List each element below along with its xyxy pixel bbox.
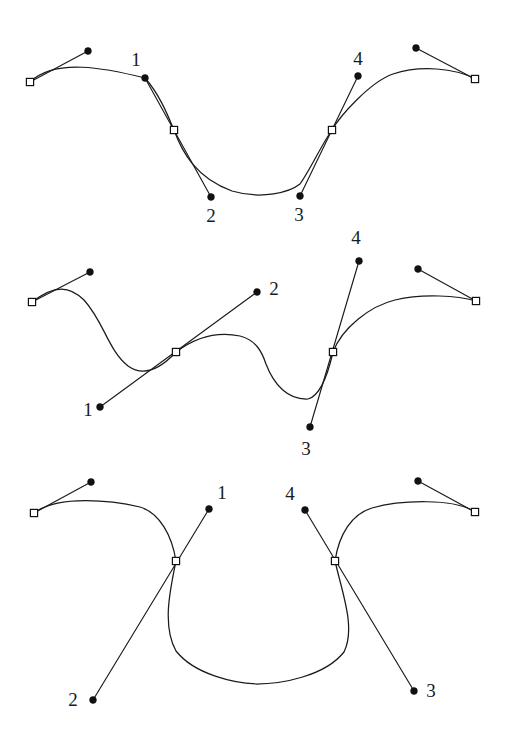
panel-1-label-2: 2	[206, 205, 216, 226]
panel-1-label-3: 3	[294, 204, 304, 225]
panel-3-anchor-mid-right[interactable]	[331, 557, 338, 564]
panel-1-ctrl-4[interactable]	[355, 73, 362, 80]
panel-3: 1234	[30, 478, 478, 711]
handle-left-end	[34, 482, 91, 513]
panel-3-anchor-mid-left[interactable]	[172, 557, 179, 564]
panel-3-label-2: 2	[68, 689, 78, 710]
panel-1-ctrl-outer-right[interactable]	[413, 45, 420, 52]
panel-1-ctrl-1[interactable]	[142, 75, 149, 82]
panel-1-ctrl-2[interactable]	[208, 194, 215, 201]
panel-1-ctrl-outer-left[interactable]	[85, 48, 92, 55]
panel-1-label-1: 1	[131, 49, 141, 70]
figure-root: 123412341234	[0, 0, 508, 751]
panel-1-ctrl-3[interactable]	[297, 193, 304, 200]
panel-3-anchor-left-end[interactable]	[30, 509, 37, 516]
panel-2: 1234	[28, 227, 479, 459]
panel-2-anchor-right-end[interactable]	[472, 297, 479, 304]
asymmetric-tangents-curve	[32, 289, 476, 399]
panel-3-ctrl-1[interactable]	[206, 506, 213, 513]
panel-3-label-3: 3	[426, 680, 436, 701]
handle-right-end	[418, 481, 475, 512]
handle-right-end	[416, 48, 475, 79]
panel-2-ctrl-4[interactable]	[356, 258, 363, 265]
panel-2-anchor-left-end[interactable]	[28, 298, 35, 305]
crossed-tangents-loop-curve	[34, 501, 475, 684]
panel-2-label-2: 2	[269, 278, 279, 299]
panel-3-label-1: 1	[217, 482, 227, 503]
panel-2-label-4: 4	[351, 227, 361, 248]
panel-2-ctrl-outer-right[interactable]	[415, 266, 422, 273]
panel-3-anchor-right-end[interactable]	[471, 508, 478, 515]
panel-2-anchor-mid-left[interactable]	[172, 348, 179, 355]
panel-3-ctrl-3[interactable]	[411, 688, 418, 695]
handle-mid-right	[305, 510, 414, 691]
panel-2-label-1: 1	[83, 399, 93, 420]
panel-1: 1234	[26, 45, 478, 227]
panel-2-ctrl-2[interactable]	[254, 289, 261, 296]
panel-1-label-4: 4	[353, 48, 363, 69]
panel-2-anchor-mid-right[interactable]	[329, 348, 336, 355]
smooth-symmetric-tangents-curve	[30, 67, 475, 195]
panel-2-label-3: 3	[301, 438, 311, 459]
handle-mid-left	[93, 509, 209, 700]
panel-1-anchor-left-end[interactable]	[26, 78, 33, 85]
panel-1-anchor-mid-right[interactable]	[328, 126, 335, 133]
panel-3-ctrl-2[interactable]	[90, 697, 97, 704]
bezier-control-point-figure: 123412341234	[0, 0, 508, 751]
panels-group: 123412341234	[26, 45, 479, 711]
handle-left-end	[30, 51, 88, 82]
panel-3-ctrl-outer-right[interactable]	[415, 478, 422, 485]
panel-3-ctrl-4[interactable]	[302, 507, 309, 514]
handle-mid-left	[145, 78, 211, 197]
panel-3-ctrl-outer-left[interactable]	[88, 479, 95, 486]
panel-3-label-4: 4	[285, 483, 295, 504]
handle-mid-right	[310, 261, 359, 427]
panel-2-ctrl-outer-left[interactable]	[87, 269, 94, 276]
panel-2-ctrl-1[interactable]	[97, 404, 104, 411]
panel-1-anchor-mid-left[interactable]	[170, 126, 177, 133]
panel-2-ctrl-3[interactable]	[307, 424, 314, 431]
panel-1-anchor-right-end[interactable]	[471, 75, 478, 82]
handle-mid-right	[300, 76, 358, 196]
